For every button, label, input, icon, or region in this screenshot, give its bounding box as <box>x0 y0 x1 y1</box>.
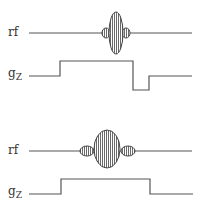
bottom-gz-label: gZ <box>8 185 22 200</box>
top-panel <box>29 12 192 90</box>
top-gz-subscript: Z <box>16 72 22 82</box>
bottom-gz-waveform <box>29 179 193 194</box>
pulse-sequence-diagram: rf gZ rf gZ <box>0 0 201 209</box>
bottom-rf-side-lobe-right <box>121 146 135 156</box>
bottom-panel <box>29 130 193 194</box>
top-gz-label-text: g <box>8 66 16 80</box>
bottom-gz-subscript: Z <box>16 190 22 200</box>
bottom-rf-label: rf <box>8 144 18 156</box>
bottom-rf-label-text: rf <box>8 143 18 157</box>
top-rf-label-text: rf <box>8 25 18 39</box>
bottom-rf-side-lobe-left <box>80 146 94 156</box>
top-gz-label: gZ <box>8 67 22 82</box>
diagram-canvas <box>0 0 201 209</box>
top-rf-main-lobe <box>109 12 123 54</box>
top-rf-label: rf <box>8 26 18 38</box>
bottom-rf-main-lobe <box>94 130 120 168</box>
top-gz-waveform <box>29 61 192 90</box>
bottom-gz-label-text: g <box>8 184 16 198</box>
